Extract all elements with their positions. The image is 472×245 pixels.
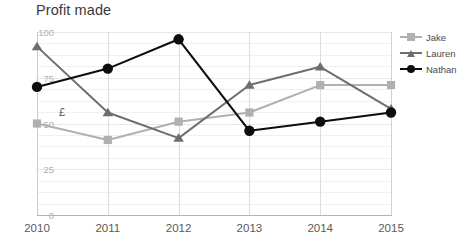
data-point-marker — [315, 62, 326, 70]
line-chart: Profit made 0255075100 20102011201220132… — [0, 0, 472, 245]
chart-legend: JakeLaurenNathan — [400, 30, 472, 78]
data-point-marker — [103, 63, 113, 73]
legend-swatch — [400, 31, 422, 43]
legend-label: Nathan — [426, 64, 457, 75]
legend-marker-triangle-icon — [407, 50, 415, 57]
legend-item-lauren[interactable]: Lauren — [400, 46, 472, 60]
series-lauren — [32, 42, 397, 142]
data-point-marker — [33, 119, 41, 127]
data-point-marker — [175, 118, 183, 126]
legend-label: Lauren — [426, 48, 456, 59]
data-point-marker — [244, 126, 254, 136]
data-point-marker — [32, 82, 42, 92]
data-point-marker — [387, 81, 395, 89]
legend-swatch — [400, 63, 422, 75]
data-point-marker — [173, 34, 183, 44]
data-point-marker — [245, 108, 253, 116]
legend-swatch — [400, 47, 422, 59]
data-point-marker — [386, 107, 396, 117]
legend-marker-square-icon — [407, 33, 415, 41]
legend-item-jake[interactable]: Jake — [400, 30, 472, 44]
series-line — [37, 47, 391, 139]
legend-label: Jake — [426, 32, 446, 43]
legend-marker-circle-icon — [407, 65, 415, 73]
data-point-marker — [315, 116, 325, 126]
legend-item-nathan[interactable]: Nathan — [400, 62, 472, 76]
data-point-marker — [316, 81, 324, 89]
data-point-marker — [32, 42, 43, 50]
data-point-marker — [104, 136, 112, 144]
